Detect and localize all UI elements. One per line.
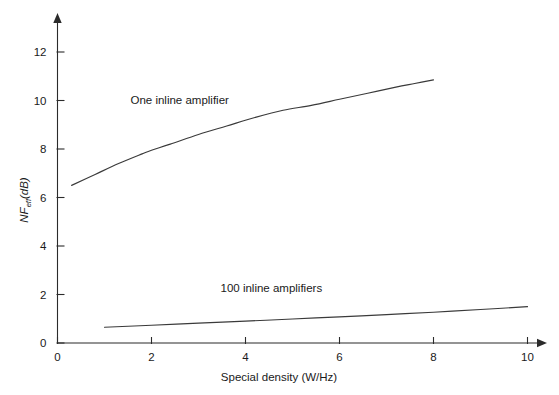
y-tick-label: 4 xyxy=(40,240,47,252)
x-tick-label: 8 xyxy=(430,351,436,363)
series-label-1: 100 inline amplifiers xyxy=(221,282,323,294)
y-tick-label: 0 xyxy=(40,337,46,349)
x-tick-label: 4 xyxy=(242,351,249,363)
x-tick-label: 2 xyxy=(148,351,154,363)
y-tick-label: 10 xyxy=(34,95,47,107)
chart-figure: 024681012 0246810 Special density (W/Hz)… xyxy=(0,0,559,395)
y-tick-label: 8 xyxy=(40,143,46,155)
x-tick-label: 0 xyxy=(54,351,60,363)
y-tick-label: 6 xyxy=(40,192,46,204)
x-axis-title: Special density (W/Hz) xyxy=(221,371,337,383)
series-label-0: One inline amplifier xyxy=(130,94,229,106)
x-tick-label: 10 xyxy=(521,351,534,363)
y-tick-label: 12 xyxy=(34,46,47,58)
x-tick-label: 6 xyxy=(336,351,342,363)
chart-background xyxy=(0,0,559,395)
line-chart-canvas: 024681012 0246810 Special density (W/Hz)… xyxy=(0,0,559,395)
y-tick-label: 2 xyxy=(40,289,46,301)
